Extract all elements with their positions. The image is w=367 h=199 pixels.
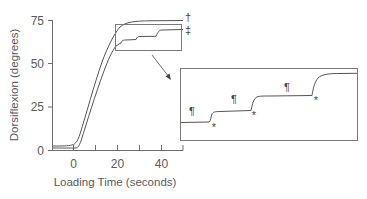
series-dagger-curve xyxy=(53,21,183,147)
zoom-arrow-line xyxy=(152,55,169,77)
zoom-region-box xyxy=(116,25,182,51)
arrow-head-icon xyxy=(166,74,172,81)
double-dagger-marker: ‡ xyxy=(185,24,191,36)
plateau-marker-1: ¶ xyxy=(189,105,195,117)
inset-stepped-curve xyxy=(181,73,357,122)
x-tick-label-40: 40 xyxy=(155,157,169,171)
step-marker-1: * xyxy=(212,121,217,133)
dagger-marker: † xyxy=(185,11,191,23)
y-tick-label-50: 50 xyxy=(31,57,45,71)
y-axis-label: Dorsiflexion (degrees) xyxy=(8,29,20,142)
series-double-dagger-curve xyxy=(53,30,183,149)
chart-figure: 75 50 25 0 0 20 40 Loading Time (seconds… xyxy=(0,0,367,199)
step-marker-2: * xyxy=(252,109,257,121)
step-marker-3: * xyxy=(314,94,319,106)
inset-box xyxy=(181,69,358,141)
plateau-marker-3: ¶ xyxy=(284,81,290,93)
y-tick-label-0: 0 xyxy=(37,144,44,158)
plateau-marker-2: ¶ xyxy=(231,93,237,105)
x-tick-label-20: 20 xyxy=(111,157,125,171)
y-tick-label-75: 75 xyxy=(31,14,45,28)
y-tick-label-25: 25 xyxy=(31,100,45,114)
x-ticks xyxy=(74,145,184,151)
y-ticks xyxy=(48,21,53,151)
x-tick-label-0: 0 xyxy=(70,157,77,171)
x-axis-label: Loading Time (seconds) xyxy=(54,176,177,188)
